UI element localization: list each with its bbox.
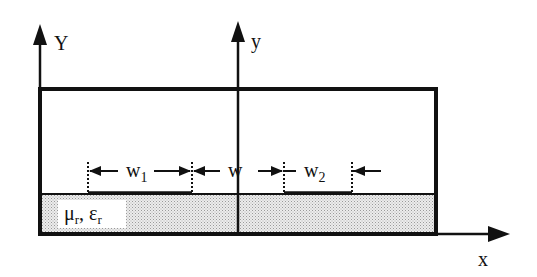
arrow-left-icon bbox=[193, 166, 205, 176]
arrow-left-icon bbox=[89, 166, 101, 176]
Y-axis-label: Y bbox=[54, 32, 68, 54]
x-axis-label: x bbox=[478, 248, 488, 270]
substrate-label: μr, εr bbox=[64, 202, 102, 227]
y-axis-label: y bbox=[251, 30, 261, 53]
arrow-right-icon bbox=[271, 166, 283, 176]
w2-label: w2 bbox=[304, 159, 325, 185]
arrow-right-icon bbox=[179, 166, 191, 176]
arrow-right-icon bbox=[488, 226, 510, 242]
w1-label: w1 bbox=[126, 159, 147, 185]
arrow-left-icon bbox=[353, 166, 365, 176]
w-label: w bbox=[228, 159, 243, 181]
w2-dimension bbox=[284, 166, 381, 176]
microstrip-diagram: Y y x w1 w w2 μr, εr bbox=[0, 0, 537, 277]
x-axis bbox=[436, 226, 510, 242]
arrow-up-icon bbox=[231, 21, 245, 42]
arrow-up-icon bbox=[33, 24, 47, 45]
